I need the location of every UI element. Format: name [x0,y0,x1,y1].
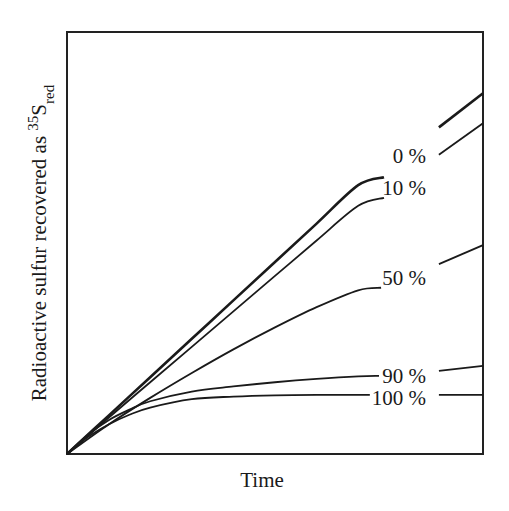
series-label-0pct: 0 % [393,144,426,168]
series-line-10pct [67,198,384,454]
series-label-10pct: 10 % [382,176,426,200]
series-line-50pct [67,288,381,454]
series-line-90pct-tail [439,366,483,371]
series-label-90pct: 90 % [382,364,426,388]
series-line-50pct-tail [439,245,483,264]
series-line-0pct-tail [439,93,483,127]
series-labels: 0 %10 %50 %90 %100 % [372,144,426,410]
series-label-100pct: 100 % [372,386,426,410]
series-line-10pct-tail [439,123,483,155]
y-axis-label: Radioactive sulfur recovered as 35Sred [25,84,57,401]
series-line-100pct [67,395,370,454]
series-line-90pct [67,376,379,454]
chart: 0 %10 %50 %90 %100 % Time Radioactive su… [0,0,509,511]
x-axis-label: Time [240,468,284,492]
series-label-50pct: 50 % [382,266,426,290]
